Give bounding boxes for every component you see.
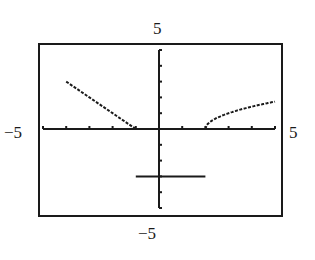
axes [43,50,275,208]
graph-plot [0,0,315,260]
piece-1-curve [66,82,136,129]
piece-3-curve [205,102,275,129]
